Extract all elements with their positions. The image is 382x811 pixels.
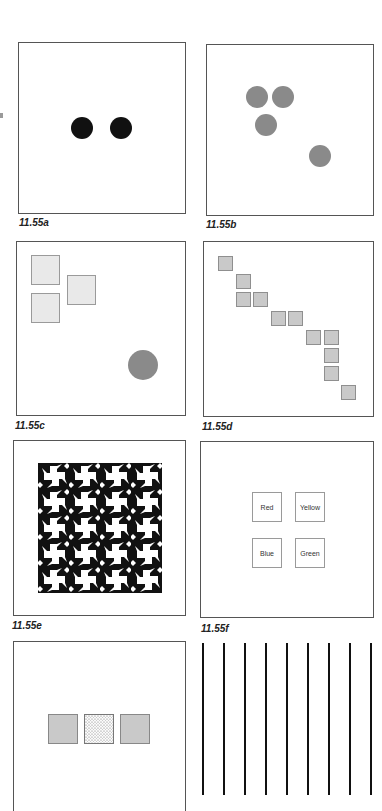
gray-square (324, 348, 339, 363)
gray-square (253, 292, 268, 307)
label-blue: Blue (260, 550, 274, 557)
vertical-line (286, 643, 288, 795)
vertical-line (265, 643, 267, 795)
caption-f: 11.55f (201, 623, 229, 634)
light-square (31, 293, 60, 323)
gray-square (306, 330, 321, 345)
panel-a (18, 42, 186, 214)
gray-square (236, 292, 251, 307)
gray-circle (255, 114, 277, 136)
panel-f: Red Yellow Blue Green (200, 441, 374, 618)
gray-circle (309, 145, 331, 167)
caption-d: 11.55d (202, 421, 232, 432)
vertical-line (244, 643, 246, 795)
black-dot (71, 117, 93, 139)
vertical-line (307, 643, 309, 795)
caption-e: 11.55e (12, 620, 42, 631)
gray-square (341, 385, 356, 400)
page-edge-mark (0, 113, 3, 118)
vertical-line (328, 643, 330, 795)
panel-d (203, 241, 374, 417)
label-square-green: Green (295, 538, 325, 568)
gray-circle (272, 86, 294, 108)
panel-g (13, 641, 186, 811)
label-yellow: Yellow (300, 504, 320, 511)
vertical-line (349, 643, 351, 795)
gray-circle (246, 86, 268, 108)
gray-square (271, 311, 286, 326)
gray-square (288, 311, 303, 326)
caption-b: 11.55b (206, 219, 236, 230)
gray-circle (128, 350, 158, 380)
gray-square (236, 274, 251, 289)
panel-b (206, 44, 374, 216)
label-square-blue: Blue (252, 538, 282, 568)
vertical-line (223, 643, 225, 795)
dotted-square (84, 714, 114, 744)
label-square-yellow: Yellow (295, 492, 325, 522)
label-square-red: Red (252, 492, 282, 522)
pinwheel-tessellation (14, 441, 187, 617)
light-square (67, 275, 96, 305)
label-red: Red (261, 504, 274, 511)
gray-square (218, 256, 233, 271)
light-square (31, 255, 60, 285)
panel-e (13, 440, 186, 616)
vertical-line (370, 643, 372, 795)
gray-square (48, 714, 78, 744)
gray-square (324, 366, 339, 381)
tessellation-fill (38, 463, 162, 593)
gray-square (120, 714, 150, 744)
vertical-line (202, 643, 204, 795)
black-dot (110, 117, 132, 139)
panel-c (16, 241, 186, 416)
caption-c: 11.55c (15, 420, 45, 431)
caption-a: 11.55a (19, 217, 49, 228)
gray-square (324, 330, 339, 345)
label-green: Green (300, 550, 319, 557)
